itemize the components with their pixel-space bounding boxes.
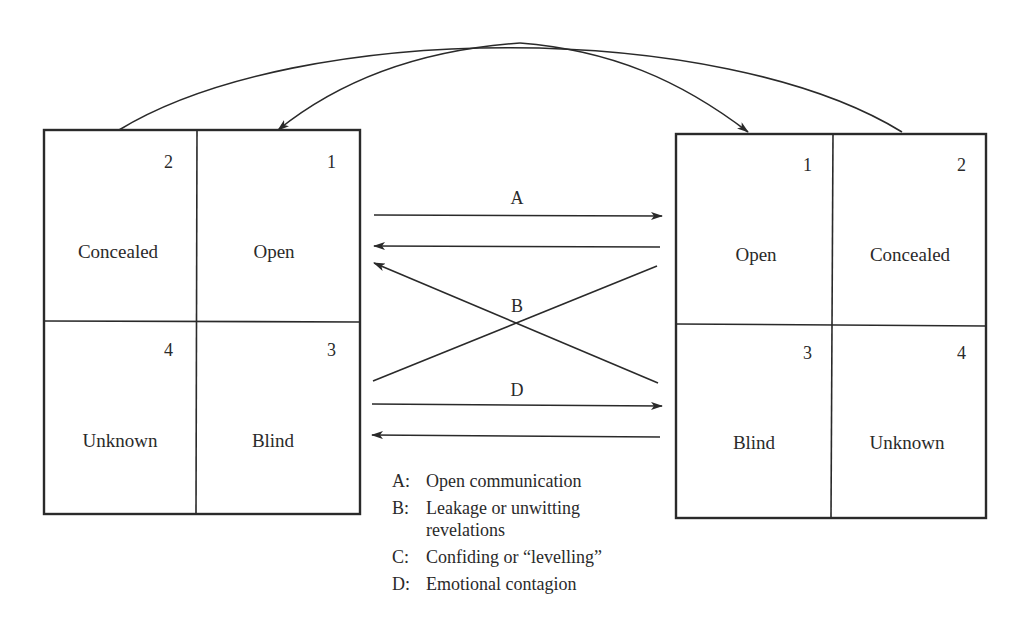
arrow-a-right	[374, 215, 662, 216]
communication-arrows	[372, 215, 662, 437]
left-cell-number: 1	[327, 152, 336, 172]
left-johari-window: 2 Concealed 1 Open 4 Unknown 3 Blind	[44, 130, 360, 514]
legend-key: D:	[392, 573, 426, 595]
left-cell-number: 2	[164, 152, 173, 172]
legend-item-c: C: Confiding or “levelling”	[392, 546, 652, 568]
right-cell-number: 2	[957, 155, 966, 175]
inner-arc-to-right-open	[520, 43, 748, 132]
legend: A: Open communication B: Leakage or unwi…	[392, 470, 652, 600]
right-johari-window: 1 Open 2 Concealed 3 Blind 4 Unknown	[676, 134, 986, 518]
arrow-label-b: B	[511, 296, 523, 316]
left-cell-concealed: Concealed	[78, 241, 159, 262]
legend-key: C:	[392, 546, 426, 568]
right-cell-open: Open	[735, 244, 777, 265]
left-cell-number: 3	[327, 340, 336, 360]
arrow-d-left	[372, 435, 660, 437]
legend-text: Confiding or “levelling”	[426, 546, 652, 568]
arrow-a-left	[374, 246, 660, 247]
confiding-arcs	[119, 43, 902, 132]
legend-key: B:	[392, 497, 426, 541]
left-cell-number: 4	[164, 340, 173, 360]
left-cell-blind: Blind	[252, 430, 295, 451]
legend-item-d: D: Emotional contagion	[392, 573, 652, 595]
right-cell-blind: Blind	[733, 432, 776, 453]
right-cell-number: 4	[957, 343, 966, 363]
left-cell-unknown: Unknown	[83, 430, 158, 451]
left-cell-open: Open	[253, 241, 295, 262]
legend-item-a: A: Open communication	[392, 470, 652, 492]
inner-arc-to-left-open	[278, 43, 520, 130]
right-cell-number: 3	[803, 343, 812, 363]
outer-arc	[119, 48, 902, 132]
arrow-label-d: D	[511, 380, 524, 400]
right-cell-concealed: Concealed	[870, 244, 951, 265]
legend-text: Leakage or unwitting revelations	[426, 497, 626, 541]
right-cell-number: 1	[803, 155, 812, 175]
legend-key: A:	[392, 470, 426, 492]
arrow-d-right	[372, 404, 662, 406]
right-cell-unknown: Unknown	[870, 432, 945, 453]
legend-text: Emotional contagion	[426, 573, 652, 595]
legend-item-b: B: Leakage or unwitting revelations	[392, 497, 652, 541]
arrow-label-a: A	[511, 188, 524, 208]
legend-text: Open communication	[426, 470, 652, 492]
